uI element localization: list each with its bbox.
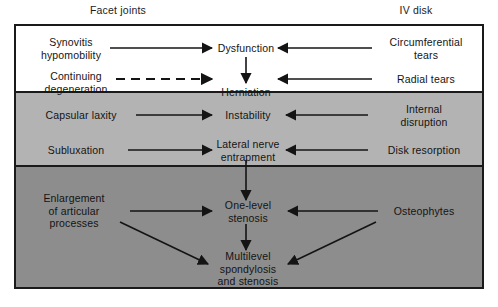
column-header-facet-joints: Facet joints <box>90 4 146 16</box>
column-header-iv-disk: IV disk <box>400 4 433 16</box>
node-radial-tears: Radial tears <box>397 73 455 86</box>
node-disk-resorption: Disk resorption <box>388 144 460 157</box>
node-multilevel-spondylosis-and-stenosis: Multilevel spondylosis and stenosis <box>218 250 279 288</box>
node-circumferential-tears: Circumferential tears <box>390 36 463 61</box>
node-capsular-laxity: Capsular laxity <box>45 109 116 122</box>
node-instability: Instability <box>225 109 270 122</box>
node-osteophytes: Osteophytes <box>394 205 455 218</box>
diagram-frame: Synovitis hypomobility Dysfunction Circu… <box>14 24 484 289</box>
node-enlargement-of-articular-processes: Enlargement of articular processes <box>43 192 104 230</box>
node-one-level-stenosis: One-level stenosis <box>225 199 271 224</box>
node-lateral-nerve-entrapment: Lateral nerve entrapment <box>216 138 279 163</box>
node-dysfunction: Dysfunction <box>218 42 275 55</box>
node-synovitis-hypomobility: Synovitis hypomobility <box>41 36 101 61</box>
node-herniation: Herniation <box>221 86 270 99</box>
node-internal-disruption: Internal disruption <box>400 103 447 128</box>
figure-root: Facet joints IV disk <box>0 0 498 307</box>
node-subluxation: Subluxation <box>48 144 105 157</box>
node-continuing-degeneration: Continuing degeneration <box>44 70 107 95</box>
